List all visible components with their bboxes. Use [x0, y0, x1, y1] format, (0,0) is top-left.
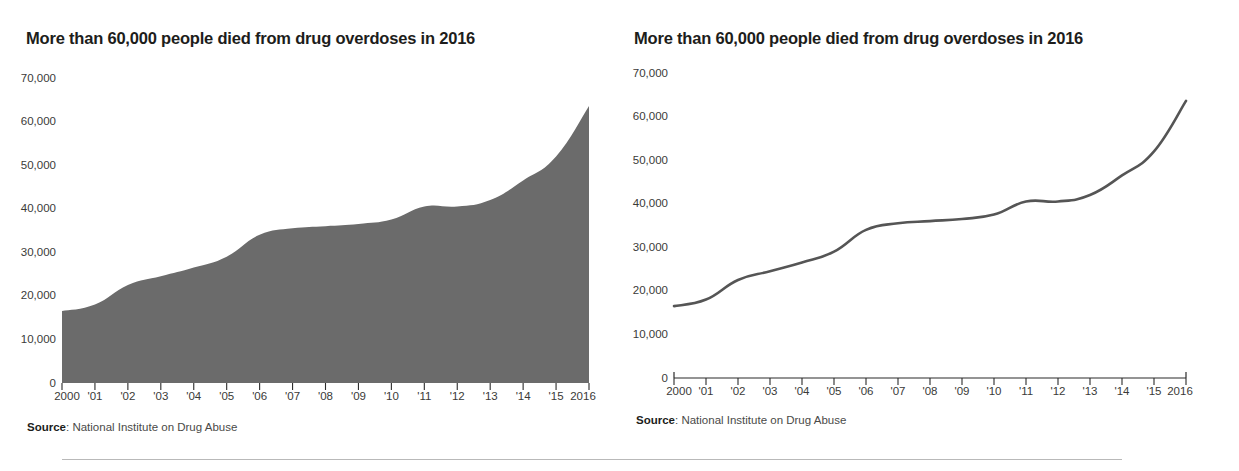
- x-axis-tick-label: '06: [859, 386, 874, 398]
- source-label: Source: [27, 421, 66, 433]
- x-axis-tick-label: 2016: [1167, 386, 1193, 398]
- x-axis-tick-label: '05: [219, 391, 234, 403]
- y-axis-tick-label: 30,000: [633, 242, 668, 254]
- y-axis-tick-label: 50,000: [21, 160, 56, 172]
- source-text: : National Institute on Drug Abuse: [66, 421, 237, 433]
- y-axis-tick-label: 60,000: [633, 111, 668, 123]
- x-axis-tick-label: '11: [417, 391, 431, 403]
- source-label-secondary: Source: [636, 414, 675, 426]
- x-axis-tick-label: '05: [827, 386, 842, 398]
- x-axis-tick-label: '15: [1147, 386, 1162, 398]
- line-series-path: [674, 101, 1186, 306]
- y-axis-tick-label: 10,000: [633, 329, 668, 341]
- y-axis-labels-area: 70,00060,00050,00040,00030,00020,00010,0…: [0, 78, 56, 383]
- y-axis-tick-label: 20,000: [21, 290, 56, 302]
- x-axis-tick-label: '03: [763, 386, 778, 398]
- y-axis-tick-label: 60,000: [21, 116, 56, 128]
- y-axis-tick-label: 0: [50, 378, 56, 390]
- y-axis-tick-label: 70,000: [21, 73, 56, 85]
- x-axis-tick-label: 2000: [666, 386, 692, 398]
- x-axis-tick-label: '13: [1083, 386, 1098, 398]
- plot-area-chart: [62, 78, 589, 383]
- y-axis-tick-label: 0: [662, 373, 668, 385]
- x-axis-tick-label: '03: [153, 391, 168, 403]
- y-axis-tick-label: 20,000: [633, 285, 668, 297]
- x-axis-tick-label: '04: [186, 391, 201, 403]
- x-axis-tick-label: '06: [252, 391, 267, 403]
- x-axis-tick-label: '14: [516, 391, 531, 403]
- x-axis-tick-label: '07: [285, 391, 300, 403]
- source-note-area: Source: National Institute on Drug Abuse: [27, 421, 237, 433]
- x-axis-tick-label: '13: [483, 391, 498, 403]
- area-series-path: [62, 106, 589, 383]
- x-axis-tick-label: '08: [923, 386, 938, 398]
- x-axis-tick-label: '14: [1115, 386, 1130, 398]
- x-axis-tick-label: 2016: [570, 391, 596, 403]
- y-axis-tick-label: 30,000: [21, 247, 56, 259]
- x-axis-tick-label: '12: [1051, 386, 1066, 398]
- y-axis-tick-label: 40,000: [21, 203, 56, 215]
- x-axis-tick-label: '04: [795, 386, 810, 398]
- y-axis-tick-label: 40,000: [633, 198, 668, 210]
- plot-line-chart: [674, 73, 1186, 378]
- x-axis-tick-label: '10: [987, 386, 1002, 398]
- x-axis-labels-line: 2000'01'02'03'04'05'06'07'08'09'10'11'12…: [674, 386, 1186, 402]
- x-axis-tick-label: '11: [1019, 386, 1033, 398]
- y-axis-labels-line: 70,00060,00050,00040,00030,00020,00010,0…: [606, 73, 668, 378]
- x-axis-tick-label: '10: [384, 391, 399, 403]
- x-axis-tick-label: '08: [318, 391, 333, 403]
- x-axis-line-and-ticks: [674, 372, 1186, 385]
- chart-panel-line: More than 60,000 people died from drug o…: [619, 0, 1239, 471]
- x-axis-tick-label: '15: [549, 391, 564, 403]
- x-axis-tick-label: '01: [87, 391, 102, 403]
- figure-page: More than 60,000 people died from drug o…: [0, 0, 1239, 471]
- x-axis-ticks-area: [62, 383, 589, 390]
- footer-divider: [62, 459, 1122, 460]
- y-axis-tick-label: 50,000: [633, 155, 668, 167]
- area-chart-svg: [62, 78, 589, 383]
- x-axis-tick-label: '07: [891, 386, 906, 398]
- x-axis-tick-label: '02: [120, 391, 135, 403]
- x-axis-tick-label: '02: [731, 386, 746, 398]
- line-chart-svg: [674, 73, 1186, 378]
- x-axis-tick-label: '09: [351, 391, 366, 403]
- page-title: More than 60,000 people died from drug o…: [26, 29, 475, 48]
- y-axis-tick-label: 70,000: [633, 68, 668, 80]
- x-axis-labels-area: 2000'01'02'03'04'05'06'07'08'09'10'11'12…: [62, 391, 589, 407]
- y-axis-tick-label: 10,000: [21, 334, 56, 346]
- chart-panel-area: More than 60,000 people died from drug o…: [0, 0, 620, 471]
- page-title-secondary: More than 60,000 people died from drug o…: [634, 29, 1083, 48]
- x-axis-tick-label: 2000: [54, 391, 80, 403]
- x-axis-tick-label: '12: [450, 391, 465, 403]
- x-axis-tick-label: '09: [955, 386, 970, 398]
- x-axis-tick-label: '01: [699, 386, 714, 398]
- source-text-secondary: : National Institute on Drug Abuse: [675, 414, 846, 426]
- source-note-line: Source: National Institute on Drug Abuse: [636, 414, 846, 426]
